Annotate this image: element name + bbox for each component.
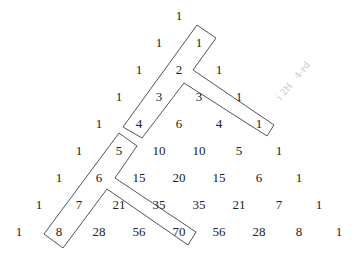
triangle-cell: 1	[204, 63, 234, 77]
triangle-cell: 1	[164, 9, 194, 23]
triangle-cell: 1	[284, 171, 314, 185]
triangle-cell: 8	[44, 225, 74, 239]
triangle-cell: 56	[124, 225, 154, 239]
triangle-cell: 1	[24, 198, 54, 212]
triangle-cell: 35	[144, 198, 174, 212]
triangle-cell: 35	[184, 198, 214, 212]
triangle-cell: 4	[124, 117, 154, 131]
triangle-cell: 7	[64, 198, 94, 212]
triangle-cell: 2	[164, 63, 194, 77]
triangle-cell: 70	[164, 225, 194, 239]
triangle-cell: 6	[244, 171, 274, 185]
triangle-cell: 10	[184, 144, 214, 158]
triangle-cell: 1	[144, 36, 174, 50]
triangle-cell: 1	[264, 144, 294, 158]
triangle-cell: 3	[144, 90, 174, 104]
triangle-cell: 20	[164, 171, 194, 185]
pascal-triangle-diagram: 1111211331146411510105116152015611721353…	[0, 0, 357, 258]
triangle-cell: 5	[104, 144, 134, 158]
triangle-cell: 28	[84, 225, 114, 239]
triangle-cell: 6	[164, 117, 194, 131]
triangle-cell: 7	[264, 198, 294, 212]
triangle-cell: 8	[284, 225, 314, 239]
triangle-cell: 5	[224, 144, 254, 158]
triangle-cell: 1	[44, 171, 74, 185]
triangle-cell: 28	[244, 225, 274, 239]
triangle-cell: 1	[104, 90, 134, 104]
triangle-cell: 1	[244, 117, 274, 131]
triangle-cell: 1	[124, 63, 154, 77]
triangle-cell: 1	[84, 117, 114, 131]
triangle-cell: 1	[184, 36, 214, 50]
triangle-cell: 3	[184, 90, 214, 104]
triangle-cell: 21	[224, 198, 254, 212]
triangle-cell: 56	[204, 225, 234, 239]
triangle-cell: 15	[124, 171, 154, 185]
triangle-cell: 1	[324, 225, 354, 239]
triangle-cell: 1	[224, 90, 254, 104]
triangle-cell: 1	[304, 198, 334, 212]
triangle-cell: 21	[104, 198, 134, 212]
triangle-cell: 1	[4, 225, 34, 239]
triangle-cell: 4	[204, 117, 234, 131]
triangle-cell: 1	[64, 144, 94, 158]
triangle-cell: 15	[204, 171, 234, 185]
triangle-cell: 6	[84, 171, 114, 185]
triangle-cell: 10	[144, 144, 174, 158]
